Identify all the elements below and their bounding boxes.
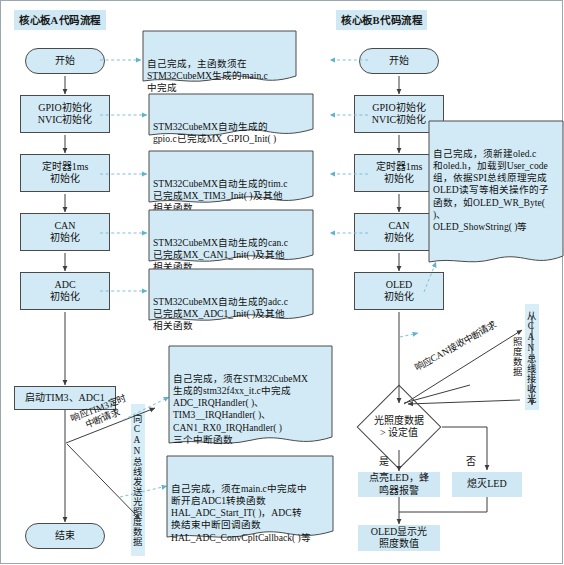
note-gpio-c: STM32CubeMX自动生成的 gpio.c已完成MX_GPIO_Init( … bbox=[148, 93, 314, 141]
left-node-end[interactable]: 结束 bbox=[25, 523, 105, 549]
left-node-gpio-init[interactable]: GPIO初始化 NVIC初始化 bbox=[20, 95, 110, 133]
note-adc-c: STM32CubeMX自动生成的adc.c 已完成MX_ADC1_Init( )… bbox=[148, 268, 314, 326]
right-node-oled-show-value[interactable]: OLED显示光 照度数值 bbox=[358, 525, 440, 551]
note-stm32f4xx-it-c: 自己完成，须在STM32CubeMX 生成的stm32f4xx_it.c中完成 … bbox=[168, 345, 333, 449]
right-node-oled-init[interactable]: OLED 初始化 bbox=[354, 272, 444, 310]
right-node-start[interactable]: 开始 bbox=[359, 48, 439, 74]
left-edge-label-can-send: 向CAN总线发送光照度数据 bbox=[131, 404, 145, 556]
right-edge-label-can-recv: 从CAN总线接收光照度数据 bbox=[525, 304, 539, 410]
note-text: 自己完成，须在STM32CubeMX 生成的stm32f4xx_it.c中完成 … bbox=[173, 373, 329, 447]
left-node-start[interactable]: 开始 bbox=[25, 48, 105, 74]
left-node-can-init[interactable]: CAN 初始化 bbox=[20, 213, 110, 251]
right-branch-label-no: 否 bbox=[466, 453, 476, 468]
right-column-title: 核心板B代码流程 bbox=[336, 10, 427, 30]
note-tim-c: STM32CubeMX自动生成的tim.c 已完成MX_TIM3_Init( )… bbox=[148, 150, 314, 208]
left-node-timer-init[interactable]: 定时器1ms 初始化 bbox=[20, 154, 110, 192]
right-node-led-off[interactable]: 熄灭LED bbox=[452, 472, 522, 497]
note-main-c-hal: 自己完成，须在main.c中完成中 断开启ADC1转换函数 HAL_ADC_St… bbox=[166, 455, 334, 543]
right-node-decision-label: 光照度数据 > 设定值 bbox=[352, 414, 446, 440]
right-branch-label-yes: 是 bbox=[379, 453, 389, 468]
note-text: 自己完成，须新建oled.c 和oled.h，加载到User_code 组，依据… bbox=[433, 148, 560, 234]
left-column-title: 核心板A代码流程 bbox=[14, 10, 106, 30]
note-text: STM32CubeMX自动生成的 gpio.c已完成MX_GPIO_Init( … bbox=[153, 121, 310, 146]
note-text: 自己完成，主函数须在 STM32CubeMX生成的main.c 中完成 bbox=[147, 58, 293, 95]
note-can-c: STM32CubeMX自动生成的can.c 已完成MX_CAN1_Init( )… bbox=[148, 209, 314, 267]
right-node-led-on-buzzer[interactable]: 点亮LED，蜂 鸣器报警 bbox=[358, 472, 440, 497]
note-oled-c: 自己完成，须新建oled.c 和oled.h，加载到User_code 组，依据… bbox=[428, 120, 564, 268]
flowchart-canvas: 核心板A代码流程 核心板B代码流程 开始 GPIO初始化 NVIC初始化 定时器… bbox=[0, 0, 564, 565]
note-text: 自己完成，须在main.c中完成中 断开启ADC1转换函数 HAL_ADC_St… bbox=[171, 483, 330, 544]
left-node-adc-init[interactable]: ADC 初始化 bbox=[20, 272, 110, 310]
note-main-c: 自己完成，主函数须在 STM32CubeMX生成的main.c 中完成 bbox=[142, 30, 297, 88]
note-text: STM32CubeMX自动生成的adc.c 已完成MX_ADC1_Init( )… bbox=[153, 296, 310, 333]
